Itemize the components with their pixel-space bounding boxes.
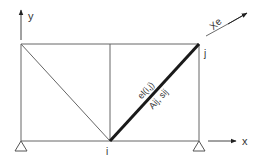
element-ij	[110, 44, 199, 141]
truss-frame	[21, 44, 199, 141]
local-axis-label: Xe	[207, 15, 224, 32]
y-axis-label: y	[28, 10, 34, 22]
node-j-label: j	[203, 48, 206, 59]
y-axis: y	[21, 10, 34, 40]
left-diagonal	[21, 44, 110, 141]
truss-diagram: y x el(i,j) Aij, sij Xe i j	[0, 0, 256, 160]
x-axis: x	[208, 135, 248, 147]
support-left	[15, 141, 27, 151]
support-right	[193, 141, 205, 151]
node-i-label: i	[106, 146, 108, 157]
x-axis-label: x	[242, 135, 248, 147]
local-axis-xe: Xe	[206, 13, 247, 36]
